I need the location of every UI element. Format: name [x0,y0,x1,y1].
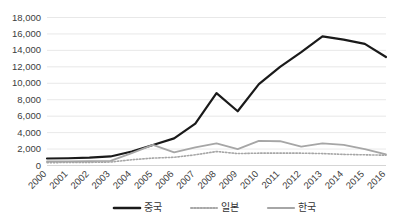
x-axis-tick-label: 2011 [259,168,281,190]
x-axis-tick-labels: 2000200120022003200420052006200720082009… [26,168,388,191]
x-axis-tick-label: 2010 [238,168,261,191]
x-axis-tick-label: 2004 [110,168,133,191]
y-axis-tick-label: 6,000 [17,110,41,121]
y-axis-tick-label: 4,000 [17,127,41,138]
x-axis-tick-label: 2007 [174,168,197,191]
legend-label-1: 중국 [144,202,162,213]
x-axis-tick-label: 2001 [47,168,70,191]
line-chart: 18,00016,00014,00012,00010,0008,0006,000… [0,0,409,220]
y-axis-tick-label: 14,000 [12,44,41,55]
chart-canvas: 18,00016,00014,00012,00010,0008,0006,000… [0,0,409,220]
y-axis-tick-label: 12,000 [12,61,41,72]
x-axis-tick-label: 2013 [301,168,324,191]
y-axis-tick-label: 16,000 [12,28,41,39]
x-axis-tick-label: 2000 [26,168,49,191]
x-axis-tick-label: 2015 [343,168,366,191]
x-axis-tick-label: 2002 [68,168,91,191]
x-axis-tick-label: 2008 [195,168,218,191]
legend-item-2[interactable]: 일본 [191,202,239,213]
x-axis-tick-label: 2012 [280,168,303,191]
legend-label-2: 일본 [221,202,239,213]
x-axis-tick-label: 2016 [365,168,388,191]
legend-label-3: 한국 [298,202,316,213]
y-axis-tick-label: 8,000 [17,94,41,105]
x-axis-tick-label: 2014 [322,168,345,191]
x-axis-tick-label: 2005 [132,168,155,191]
x-axis-tick-label: 2009 [216,168,239,191]
series-line-1 [47,36,386,158]
chart-legend: 중국일본한국 [114,202,316,213]
x-axis-tick-label: 2006 [153,168,176,191]
y-axis-tick-label: 18,000 [12,12,41,23]
legend-item-1[interactable]: 중국 [114,202,162,213]
y-axis-tick-label: 10,000 [12,77,41,88]
y-axis-tick-label: 2,000 [17,143,41,154]
legend-item-3[interactable]: 한국 [268,202,316,213]
y-axis-tick-labels: 18,00016,00014,00012,00010,0008,0006,000… [12,12,41,171]
x-axis-tick-label: 2003 [89,168,112,191]
